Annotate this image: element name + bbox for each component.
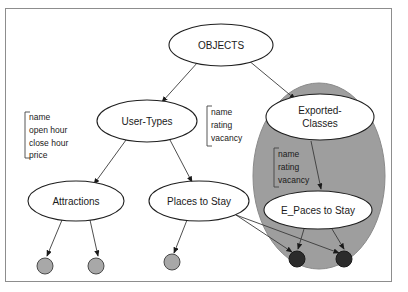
edge-places-to-stay-to-instance-1 [174, 220, 187, 253]
edge-user-types-to-attractions [94, 140, 126, 184]
attribute-item: name [211, 107, 233, 117]
node-exported-classes[interactable]: Exported- Classes [266, 94, 374, 140]
node-attractions-label: Attractions [52, 196, 99, 207]
attribute-item: name [29, 112, 51, 122]
instance-circle-attractions-1[interactable] [37, 258, 53, 274]
node-user-types[interactable]: User-Types [97, 100, 197, 142]
attribute-item: vacancy [211, 133, 243, 143]
attribute-item: rating [278, 162, 300, 172]
attribute-list-attractions: name open hour close hour price [25, 112, 68, 160]
node-places-to-stay[interactable]: Places to Stay [149, 181, 249, 221]
instance-circle-exported-1[interactable] [289, 251, 305, 267]
attribute-item: name [278, 149, 300, 159]
object-hierarchy-diagram: OBJECTS User-Types Exported- Classes Att… [0, 0, 408, 292]
instance-circle-exported-2[interactable] [336, 251, 352, 267]
edge-objects-to-user-types [162, 62, 198, 102]
node-objects[interactable]: OBJECTS [169, 24, 273, 66]
node-attractions[interactable]: Attractions [28, 181, 124, 221]
instance-circle-attractions-2[interactable] [88, 258, 104, 274]
instance-circle-places-to-stay-1[interactable] [164, 254, 180, 270]
node-places-to-stay-label: Places to Stay [167, 196, 231, 207]
node-e-paces-to-stay-label: E_Paces to Stay [281, 205, 355, 216]
attribute-item: open hour [29, 125, 67, 135]
node-exported-classes-label-line-2: Classes [302, 118, 338, 129]
edge-attractions-to-instance-2 [90, 220, 98, 256]
node-objects-label: OBJECTS [198, 40, 244, 51]
attribute-item: rating [211, 120, 233, 130]
attribute-list-places-to-stay: name rating vacancy [207, 106, 243, 146]
diagram-canvas: OBJECTS User-Types Exported- Classes Att… [0, 0, 408, 292]
attribute-item: close hour [29, 138, 68, 148]
edge-objects-to-exported-classes [248, 60, 295, 99]
attribute-item: vacancy [278, 175, 310, 185]
edge-attractions-to-instance-1 [47, 220, 62, 256]
node-exported-classes-label-line-1: Exported- [298, 105, 341, 116]
attribute-item: price [29, 150, 48, 160]
node-user-types-label: User-Types [121, 116, 172, 127]
edge-user-types-to-places-to-stay [170, 140, 192, 182]
node-e-paces-to-stay[interactable]: E_Paces to Stay [264, 191, 372, 229]
